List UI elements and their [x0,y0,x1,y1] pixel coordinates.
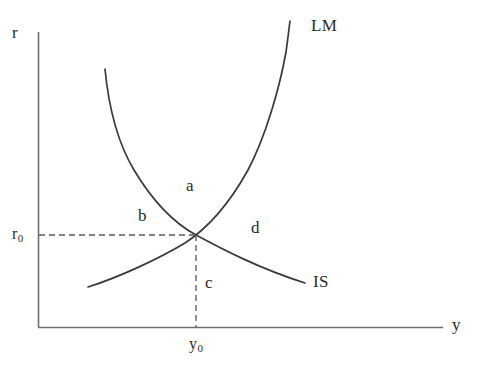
y0-subscript: 0 [198,342,204,354]
y0-tick-label: y0 [189,336,203,352]
is-curve-label: IS [313,273,329,290]
region-label-c: c [205,274,213,291]
r0-tick-label: r0 [12,226,23,242]
r0-subscript: 0 [18,232,24,244]
lm-curve [88,21,290,287]
r0-base: r [12,225,17,242]
is-lm-diagram: r y LM IS r0 y0 a b c d [0,0,486,381]
region-label-a: a [186,177,194,194]
lm-curve-label: LM [311,17,337,34]
region-label-b: b [138,207,147,224]
chart-plot-area [0,0,486,381]
y0-base: y [189,335,197,352]
y-axis-label: r [12,24,18,41]
region-label-d: d [251,219,260,236]
x-axis-label: y [452,316,461,333]
